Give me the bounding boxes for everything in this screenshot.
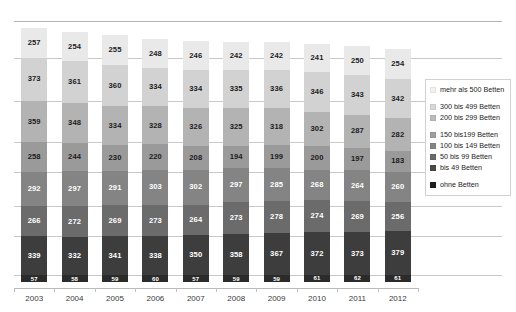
- bar-column[interactable]: 25034328719726426937362: [344, 46, 370, 282]
- bar-segment[interactable]: 248: [142, 39, 168, 68]
- bar-segment[interactable]: 258: [21, 142, 47, 172]
- bar-segment[interactable]: 264: [183, 205, 209, 235]
- bar-segment[interactable]: 61: [385, 275, 411, 282]
- bar-column[interactable]: 24233532519429727335859: [223, 42, 249, 282]
- bar-column[interactable]: 24633432620830226435057: [183, 41, 209, 282]
- bar-segment[interactable]: 273: [223, 202, 249, 234]
- bar-segment[interactable]: 268: [304, 170, 330, 201]
- bar-segment[interactable]: 291: [102, 171, 128, 205]
- bar-column[interactable]: 25436134824429727233258: [62, 32, 88, 282]
- bar-segment[interactable]: 57: [21, 275, 47, 282]
- bar-segment[interactable]: 255: [102, 35, 128, 64]
- bar-segment[interactable]: 285: [264, 168, 290, 201]
- bar-segment[interactable]: 60: [142, 275, 168, 282]
- bar-segment[interactable]: 257: [21, 28, 47, 58]
- bar-segment[interactable]: 334: [102, 106, 128, 145]
- bar-column[interactable]: 24233631819928527836759: [264, 42, 290, 282]
- bar-segment[interactable]: 220: [142, 144, 168, 169]
- bar-segment[interactable]: 328: [142, 106, 168, 144]
- bar-segment[interactable]: 274: [304, 200, 330, 232]
- bar-segment[interactable]: 273: [142, 205, 168, 237]
- bar-segment[interactable]: 336: [264, 70, 290, 109]
- bar-segment[interactable]: 59: [264, 275, 290, 282]
- bar-column[interactable]: 25434228218326025637961: [385, 49, 411, 282]
- bar-segment[interactable]: 58: [62, 275, 88, 282]
- legend-item[interactable]: 100 bis 149 Betten: [430, 140, 507, 151]
- bar-segment[interactable]: 59: [102, 275, 128, 282]
- bar-segment[interactable]: 230: [102, 145, 128, 172]
- bar-segment[interactable]: 367: [264, 233, 290, 275]
- bar-segment-value: 318: [270, 123, 283, 131]
- bar-segment[interactable]: 242: [264, 42, 290, 70]
- bar-segment[interactable]: 208: [183, 146, 209, 170]
- bar-segment[interactable]: 339: [21, 236, 47, 275]
- bar-segment[interactable]: 287: [344, 115, 370, 148]
- bar-segment[interactable]: 297: [223, 168, 249, 202]
- bar-segment[interactable]: 350: [183, 235, 209, 275]
- bar-segment[interactable]: 373: [21, 58, 47, 101]
- bar-segment[interactable]: 303: [142, 170, 168, 205]
- bar-segment[interactable]: 199: [264, 145, 290, 168]
- bar-segment[interactable]: 372: [304, 232, 330, 275]
- bar-segment[interactable]: 256: [385, 202, 411, 232]
- bar-segment[interactable]: 297: [62, 171, 88, 205]
- bar-segment[interactable]: 254: [62, 32, 88, 61]
- bar-segment[interactable]: 269: [102, 205, 128, 236]
- bar-segment[interactable]: 346: [304, 72, 330, 112]
- bar-segment[interactable]: 292: [21, 172, 47, 206]
- legend-item[interactable]: 150 bis199 Betten: [430, 129, 507, 140]
- bar-segment[interactable]: 379: [385, 231, 411, 275]
- bar-segment[interactable]: 278: [264, 201, 290, 233]
- legend-item[interactable]: 50 bis 99 Betten: [430, 151, 507, 162]
- bar-segment[interactable]: 342: [385, 79, 411, 118]
- bar-segment[interactable]: 332: [62, 237, 88, 275]
- bar-segment[interactable]: 359: [21, 101, 47, 142]
- bar-segment[interactable]: 341: [102, 236, 128, 275]
- bar-segment[interactable]: 373: [344, 232, 370, 275]
- bar-segment[interactable]: 326: [183, 108, 209, 146]
- bar-segment[interactable]: 318: [264, 108, 290, 145]
- legend-item[interactable]: 200 bis 299 Betten: [430, 112, 507, 123]
- legend-item[interactable]: 300 bis 499 Betten: [430, 101, 507, 112]
- bar-segment[interactable]: 254: [385, 49, 411, 78]
- bar-column[interactable]: 24134630220026827437261: [304, 44, 330, 282]
- bar-segment[interactable]: 360: [102, 65, 128, 107]
- bar-segment[interactable]: 358: [223, 234, 249, 275]
- bar-segment[interactable]: 197: [344, 148, 370, 171]
- bar-segment[interactable]: 183: [385, 151, 411, 172]
- bar-segment[interactable]: 335: [223, 70, 249, 109]
- bar-segment[interactable]: 59: [223, 275, 249, 282]
- legend-item[interactable]: mehr als 500 Betten: [430, 84, 507, 95]
- legend-item[interactable]: bis 49 Betten: [430, 162, 507, 173]
- bar-segment[interactable]: 343: [344, 75, 370, 115]
- bar-segment[interactable]: 242: [223, 42, 249, 70]
- bar-segment[interactable]: 272: [62, 206, 88, 237]
- bar-segment[interactable]: 264: [344, 170, 370, 200]
- bar-segment[interactable]: 61: [304, 275, 330, 282]
- bar-segment[interactable]: 334: [183, 70, 209, 109]
- bar-segment[interactable]: 244: [62, 143, 88, 171]
- bar-segment[interactable]: 250: [344, 46, 370, 75]
- bar-segment[interactable]: 62: [344, 275, 370, 282]
- bar-column[interactable]: 25737335925829226633957: [21, 28, 47, 282]
- bar-segment[interactable]: 334: [142, 68, 168, 107]
- bar-segment[interactable]: 269: [344, 201, 370, 232]
- bar-segment[interactable]: 241: [304, 44, 330, 72]
- bar-segment[interactable]: 302: [304, 112, 330, 147]
- bar-segment[interactable]: 200: [304, 146, 330, 169]
- bar-segment[interactable]: 282: [385, 118, 411, 151]
- bar-segment[interactable]: 361: [62, 61, 88, 103]
- bar-segment[interactable]: 266: [21, 206, 47, 237]
- bar-segment[interactable]: 57: [183, 275, 209, 282]
- legend-item[interactable]: ohne Betten: [430, 179, 507, 190]
- bar-segment[interactable]: 338: [142, 236, 168, 275]
- legend-label: 200 bis 299 Betten: [440, 113, 500, 122]
- bar-segment[interactable]: 246: [183, 41, 209, 69]
- bar-column[interactable]: 24833432822030327333860: [142, 39, 168, 282]
- bar-segment[interactable]: 325: [223, 108, 249, 146]
- bar-segment[interactable]: 260: [385, 172, 411, 202]
- bar-column[interactable]: 25536033423029126934159: [102, 35, 128, 282]
- bar-segment[interactable]: 302: [183, 170, 209, 205]
- bar-segment[interactable]: 194: [223, 146, 249, 168]
- bar-segment[interactable]: 348: [62, 103, 88, 143]
